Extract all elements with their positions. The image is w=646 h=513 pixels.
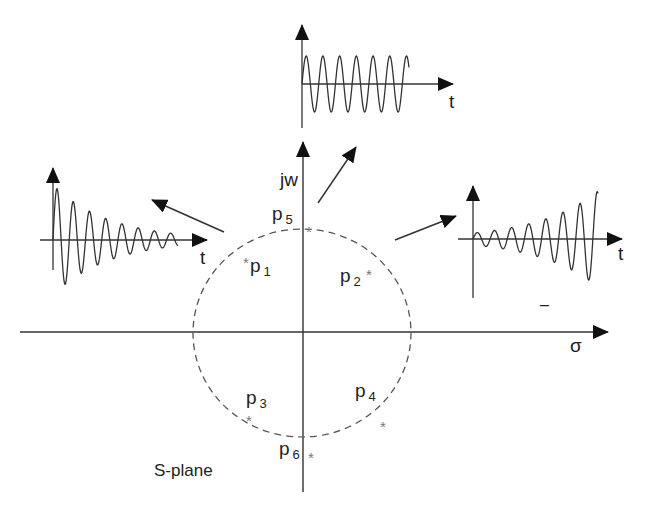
pole-marker-icon: * [308, 449, 314, 466]
pole-marker-icon: * [366, 266, 372, 283]
pole-p4: p4* [355, 380, 386, 435]
pole-markers: p1*p2*p3*p4*p5*p6* [243, 203, 386, 466]
arrow-to-top [318, 147, 356, 203]
s-plane-diagram: ttt– p1*p2*p3*p4*p5*p6* jw σ S-plane [0, 0, 646, 513]
inset-right: t– [458, 186, 624, 313]
inset-dash-mark: – [540, 296, 549, 313]
main-axes [20, 142, 608, 492]
inset-t-label: t [618, 243, 624, 264]
inset-top: t [302, 25, 455, 128]
pole-label: p5 [272, 203, 293, 227]
pole-label: p4 [355, 380, 376, 404]
pole-p2: p2* [340, 265, 372, 289]
pole-label: p3 [246, 387, 267, 411]
real-axis-label: σ [570, 335, 582, 356]
pole-label: p1 [250, 255, 271, 279]
pole-marker-icon: * [246, 412, 252, 429]
pole-p6: p6* [279, 438, 314, 466]
pole-p5: p5* [272, 203, 312, 240]
pole-p3: p3* [246, 387, 267, 429]
pole-marker-icon: * [380, 418, 386, 435]
pole-label: p2 [340, 265, 361, 289]
pole-marker-icon: * [306, 223, 312, 240]
imag-axis-label: jw [279, 169, 298, 190]
s-plane-title: S-plane [154, 461, 213, 480]
arrow-to-right [395, 216, 456, 240]
arrow-to-left [152, 200, 224, 232]
pole-p1: p1* [243, 254, 271, 279]
time-response-insets: ttt– [40, 25, 624, 313]
direction-arrows [152, 147, 456, 240]
pole-label: p6 [279, 438, 300, 462]
inset-left: t [40, 168, 207, 284]
unit-circle-dashed [193, 229, 411, 437]
inset-waveform [473, 192, 598, 280]
pole-marker-icon: * [243, 254, 249, 271]
inset-t-label: t [200, 247, 206, 268]
inset-t-label: t [449, 91, 455, 112]
